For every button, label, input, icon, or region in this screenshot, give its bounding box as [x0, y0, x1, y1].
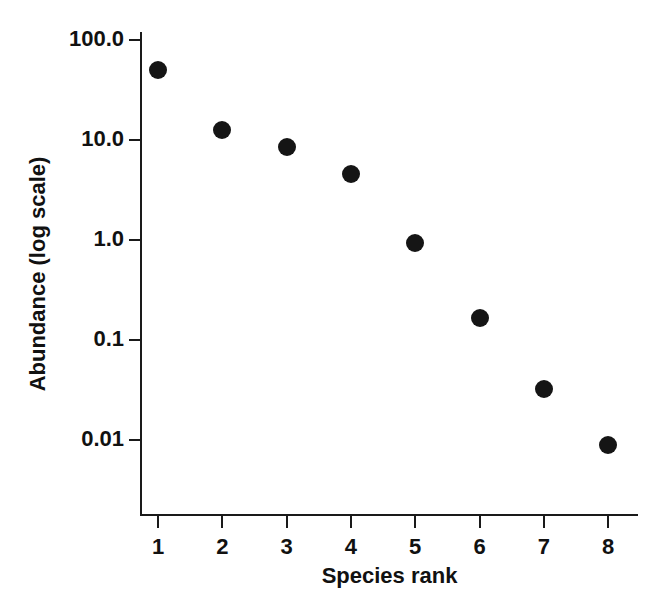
- x-tick-mark: [286, 516, 288, 528]
- y-axis-line: [140, 32, 142, 516]
- y-tick-label-text: 100.0: [69, 26, 124, 52]
- x-tick-label: 6: [460, 534, 500, 560]
- x-tick-label: 1: [138, 534, 178, 560]
- data-point: [149, 61, 167, 79]
- y-tick-label-text: 1.0: [93, 226, 124, 252]
- y-tick-mark: [129, 39, 140, 41]
- data-point: [599, 436, 617, 454]
- y-tick-mark: [129, 239, 140, 241]
- x-tick-label: 7: [524, 534, 564, 560]
- x-tick-mark: [607, 516, 609, 528]
- rank-abundance-chart: 100.010.01.00.10.01 12345678 Species ran…: [0, 0, 646, 615]
- x-tick-label: 4: [331, 534, 371, 560]
- x-tick-mark: [157, 516, 159, 528]
- y-tick-label-text: 10.0: [81, 126, 124, 152]
- x-tick-mark: [479, 516, 481, 528]
- data-point: [535, 380, 553, 398]
- data-point: [278, 138, 296, 156]
- x-tick-mark: [414, 516, 416, 528]
- data-point: [213, 121, 231, 139]
- y-tick-mark: [129, 139, 140, 141]
- y-tick-label-text: 0.01: [81, 426, 124, 452]
- x-axis-line: [140, 514, 638, 516]
- y-axis-title: Abundance (log scale): [22, 32, 54, 516]
- x-tick-label: 2: [202, 534, 242, 560]
- y-tick-mark: [129, 439, 140, 441]
- x-axis-title: Species rank: [141, 563, 638, 589]
- data-point: [406, 234, 424, 252]
- x-tick-label: 8: [588, 534, 628, 560]
- data-point: [342, 165, 360, 183]
- x-tick-mark: [543, 516, 545, 528]
- data-point: [471, 309, 489, 327]
- y-tick-mark: [129, 339, 140, 341]
- x-tick-mark: [350, 516, 352, 528]
- x-tick-mark: [221, 516, 223, 528]
- x-tick-label: 3: [267, 534, 307, 560]
- y-tick-label-text: 0.1: [93, 326, 124, 352]
- x-tick-label: 5: [395, 534, 435, 560]
